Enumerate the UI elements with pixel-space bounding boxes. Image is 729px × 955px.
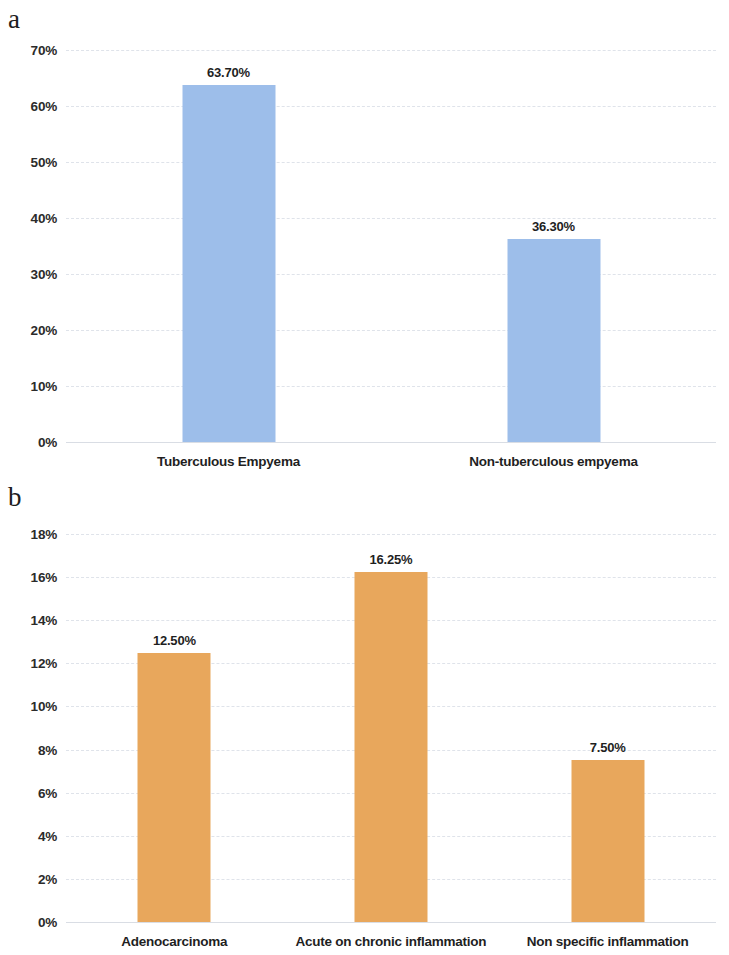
panel-a-letter: a (8, 6, 20, 33)
bar[interactable]: 7.50% (571, 760, 644, 922)
bar-chart-a: 0%10%20%30%40%50%60%70%63.70%Tuberculous… (66, 50, 716, 442)
bar[interactable]: 12.50% (138, 653, 211, 922)
y-axis-tick-label: 10% (31, 699, 57, 714)
y-axis-tick-label: 60% (31, 99, 57, 114)
bar-chart-b: 0%2%4%6%8%10%12%14%16%18%12.50%Adenocarc… (66, 534, 716, 922)
bar-group: 12.50%Adenocarcinoma (66, 534, 283, 922)
bar-group: 36.30%Non-tuberculous empyema (391, 50, 716, 442)
gridline (66, 922, 716, 923)
gridline (66, 442, 716, 443)
y-axis-tick-label: 2% (38, 871, 57, 886)
y-axis-tick-label: 30% (31, 267, 57, 282)
y-axis-tick-label: 4% (38, 828, 57, 843)
bar-value-label: 12.50% (153, 633, 196, 648)
bar-value-label: 16.25% (370, 552, 413, 567)
y-axis-tick-label: 20% (31, 323, 57, 338)
bar-value-label: 36.30% (532, 219, 575, 234)
bar-group: 7.50%Non specific inflammation (499, 534, 716, 922)
y-axis-tick-label: 50% (31, 155, 57, 170)
y-axis-tick-label: 12% (31, 656, 57, 671)
y-axis-tick-label: 40% (31, 211, 57, 226)
bar[interactable]: 16.25% (354, 572, 427, 922)
x-axis-category-label: Non specific inflammation (527, 934, 689, 949)
panel-a: a 0%10%20%30%40%50%60%70%63.70%Tuberculo… (0, 0, 729, 478)
y-axis-tick-label: 10% (31, 379, 57, 394)
y-axis-tick-label: 70% (31, 43, 57, 58)
x-axis-category-label: Non-tuberculous empyema (469, 454, 637, 469)
y-axis-tick-label: 0% (38, 915, 57, 930)
bar[interactable]: 36.30% (507, 239, 600, 442)
y-axis-tick-label: 18% (31, 527, 57, 542)
y-axis-tick-label: 6% (38, 785, 57, 800)
x-axis-category-label: Tuberculous Empyema (157, 454, 300, 469)
bar[interactable]: 63.70% (182, 85, 275, 442)
y-axis-tick-label: 16% (31, 570, 57, 585)
panel-b-letter: b (8, 484, 22, 511)
bar-value-label: 63.70% (207, 65, 250, 80)
bar-value-label: 7.50% (590, 740, 626, 755)
x-axis-category-label: Adenocarcinoma (121, 934, 227, 949)
y-axis-tick-label: 14% (31, 613, 57, 628)
y-axis-tick-label: 0% (38, 435, 57, 450)
x-axis-category-label: Acute on chronic inflammation (296, 934, 487, 949)
bar-group: 16.25%Acute on chronic inflammation (283, 534, 500, 922)
y-axis-tick-label: 8% (38, 742, 57, 757)
panel-b: b 0%2%4%6%8%10%12%14%16%18%12.50%Adenoca… (0, 478, 729, 955)
bar-group: 63.70%Tuberculous Empyema (66, 50, 391, 442)
